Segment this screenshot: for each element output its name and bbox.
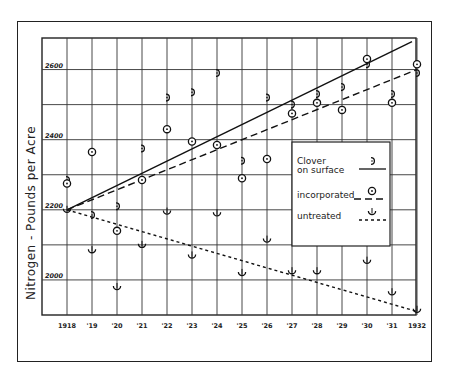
y-axis-ticks: 2000220024002600 [45, 62, 64, 280]
x-tick-label: '23 [186, 322, 197, 330]
legend-label: incorporated [297, 190, 355, 200]
x-tick-label: '24 [211, 322, 223, 330]
marker-half-circle-right [266, 94, 269, 101]
marker-circle-dot [188, 138, 195, 145]
dot [316, 102, 318, 104]
marker-circle-dot [138, 176, 145, 183]
x-tick-label: '22 [161, 322, 172, 330]
x-tick-label: '19 [86, 322, 98, 330]
dot [416, 72, 418, 74]
dot [416, 63, 418, 65]
dot [166, 128, 168, 130]
dot [216, 144, 218, 146]
dot [216, 72, 218, 74]
marker-half-circle-right [391, 91, 394, 98]
x-tick-label: '30 [361, 322, 373, 330]
x-tick-label: '29 [336, 322, 348, 330]
dot [266, 158, 268, 160]
nitrogen-chart: 2000220024002600 1918'19'20'21'22'23'24'… [0, 0, 451, 382]
marker-circle-dot [313, 99, 320, 106]
dot [191, 141, 193, 143]
legend-label: untreated [297, 211, 341, 221]
marker-half-circle-right [341, 84, 344, 91]
marker-half-circle-right [191, 89, 194, 96]
dot [291, 112, 293, 114]
marker-circle-dot [213, 141, 220, 148]
marker-circle-dot [88, 148, 95, 155]
marker-half-circle-right [141, 145, 144, 152]
dot [241, 177, 243, 179]
marker-circle-dot [63, 180, 70, 187]
dot [141, 148, 143, 150]
x-tick-label: '27 [286, 322, 297, 330]
marker-half-circle-right [241, 157, 244, 164]
x-tick-label: '25 [236, 322, 248, 330]
dot [341, 86, 343, 88]
dot [366, 63, 368, 65]
dot [341, 109, 343, 111]
y-tick-label: 2200 [45, 202, 64, 210]
marker-half-circle-right [166, 94, 169, 101]
dot [66, 183, 68, 185]
marker-circle-dot [113, 227, 120, 234]
x-tick-label: 1918 [58, 322, 77, 330]
dot [316, 93, 318, 95]
legend: Cloveron surfaceincorporateduntreated [292, 142, 390, 246]
y-tick-label: 2600 [45, 62, 64, 70]
marker-half-circle-right [216, 70, 219, 77]
dot [241, 160, 243, 162]
marker-circle-dot [288, 110, 295, 117]
dot [91, 151, 93, 153]
dot [91, 214, 93, 216]
x-tick-label: 1932 [408, 322, 426, 330]
dot [141, 179, 143, 181]
y-tick-label: 2000 [45, 272, 64, 280]
dot [371, 160, 373, 162]
marker-circle-dot [413, 61, 420, 68]
dot [391, 93, 393, 95]
marker-half-circle-right [316, 91, 319, 98]
marker-half-circle-right [291, 101, 294, 108]
y-axis-label: Nitrogen - Pounds per Acre [24, 126, 38, 300]
marker-circle-dot [388, 99, 395, 106]
dot [371, 190, 373, 192]
marker-circle-dot [363, 55, 370, 62]
dot [391, 102, 393, 104]
x-tick-label: '20 [111, 322, 123, 330]
marker-circle-dot [263, 155, 270, 162]
dot [266, 97, 268, 99]
dot [116, 230, 118, 232]
dot [166, 97, 168, 99]
dot [291, 104, 293, 106]
x-tick-label: '28 [311, 322, 323, 330]
marker-circle-dot [368, 187, 375, 194]
dot [191, 92, 193, 94]
y-tick-label: 2400 [45, 132, 64, 140]
x-tick-label: '21 [136, 322, 148, 330]
marker-half-circle-right [116, 203, 119, 210]
x-axis-ticks: 1918'19'20'21'22'23'24'25'26'27'28'29'30… [58, 322, 426, 330]
legend-label-line2: on surface [297, 165, 345, 175]
x-tick-label: '26 [261, 322, 273, 330]
dot [366, 58, 368, 60]
dot [116, 206, 118, 208]
x-tick-label: '31 [386, 322, 398, 330]
marker-circle-dot [163, 126, 170, 133]
marker-circle-dot [338, 106, 345, 113]
marker-circle-dot [238, 175, 245, 182]
